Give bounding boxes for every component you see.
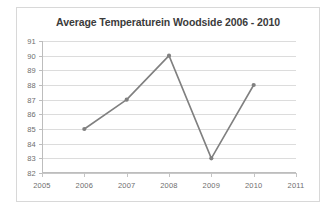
chart-container: Average Temperaturein Woodside 2006 - 20… [16,7,320,202]
y-tick-label-85: 85 [27,125,36,134]
y-tick-label-89: 89 [27,66,36,75]
x-tick-label-2009: 2009 [203,181,221,190]
x-tick-label-2010: 2010 [245,181,263,190]
x-tick-label-2006: 2006 [76,181,94,190]
data-point-2010 [252,83,256,87]
data-point-2007 [125,98,129,102]
y-tick-label-91: 91 [27,37,36,46]
series-average-temperature [42,41,296,173]
x-tick-mark-2006 [84,173,85,177]
data-point-2008 [167,54,171,58]
x-tick-mark-2010 [254,173,255,177]
y-tick-label-86: 86 [27,110,36,119]
x-tick-mark-2011 [296,173,297,177]
y-tick-label-83: 83 [27,154,36,163]
y-tick-label-90: 90 [27,51,36,60]
x-tick-label-2011: 2011 [288,181,305,190]
data-point-2006 [82,127,86,131]
x-tick-label-2005: 2005 [33,181,51,190]
plot-area: 91908988878685848382 2005200620072008200… [42,41,296,173]
x-tick-mark-2008 [169,173,170,177]
x-tick-label-2007: 2007 [118,181,136,190]
data-point-2009 [209,156,213,160]
chart-title: Average Temperaturein Woodside 2006 - 20… [17,16,319,28]
y-tick-label-88: 88 [27,81,36,90]
y-tick-label-84: 84 [27,139,36,148]
series-line [84,56,253,159]
x-tick-mark-2009 [211,173,212,177]
x-tick-mark-2005 [42,173,43,177]
x-tick-label-2008: 2008 [160,181,178,190]
x-tick-mark-2007 [127,173,128,177]
y-tick-label-87: 87 [27,95,36,104]
y-tick-label-82: 82 [27,169,36,178]
